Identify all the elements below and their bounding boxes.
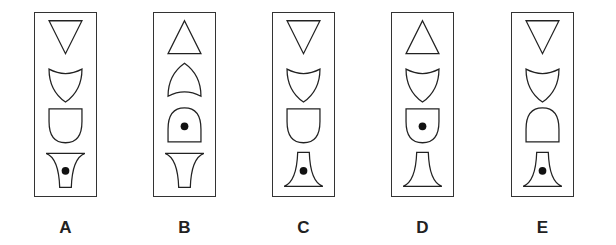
figure-sequence [512, 13, 573, 196]
option-label-b: B [153, 218, 216, 238]
option-panel-c[interactable] [272, 12, 335, 197]
option-label-c: C [272, 218, 335, 238]
option-label-e: E [511, 218, 574, 238]
option-label-a: A [34, 218, 97, 238]
figure-sequence [154, 13, 215, 196]
option-panel-a[interactable] [34, 12, 97, 197]
option-panel-e[interactable] [511, 12, 574, 197]
option-panel-b[interactable] [153, 12, 216, 197]
figure-sequence [273, 13, 334, 196]
option-panel-d[interactable] [391, 12, 454, 197]
option-label-d: D [391, 218, 454, 238]
figure-sequence [392, 13, 453, 196]
figure-sequence [35, 13, 96, 196]
